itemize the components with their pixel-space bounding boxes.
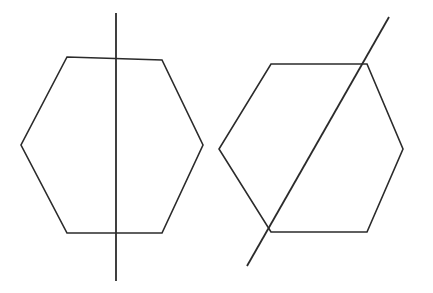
figure-canvas (0, 0, 433, 293)
diagram-background (0, 0, 433, 293)
hexagon-symmetry-diagram (0, 0, 433, 293)
